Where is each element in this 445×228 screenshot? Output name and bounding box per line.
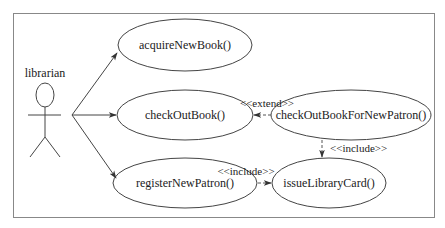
use-case-diagram: librarian acquireNewBook() checkOutBook(…	[0, 0, 445, 228]
use-case-label: issueLibraryCard()	[283, 176, 374, 190]
use-case-label: registerNewPatron()	[136, 176, 234, 190]
use-case-label: checkOutBook()	[145, 108, 225, 122]
use-case-label: acquireNewBook()	[139, 38, 231, 52]
include-label-checkout-issue: <<include>>	[330, 142, 387, 154]
extend-label: <<extend>>	[240, 97, 294, 109]
include-label-register-issue: <<include>>	[217, 165, 274, 177]
use-case-label: checkOutBookForNewPatron()	[276, 108, 427, 122]
actor-name: librarian	[25, 66, 66, 80]
